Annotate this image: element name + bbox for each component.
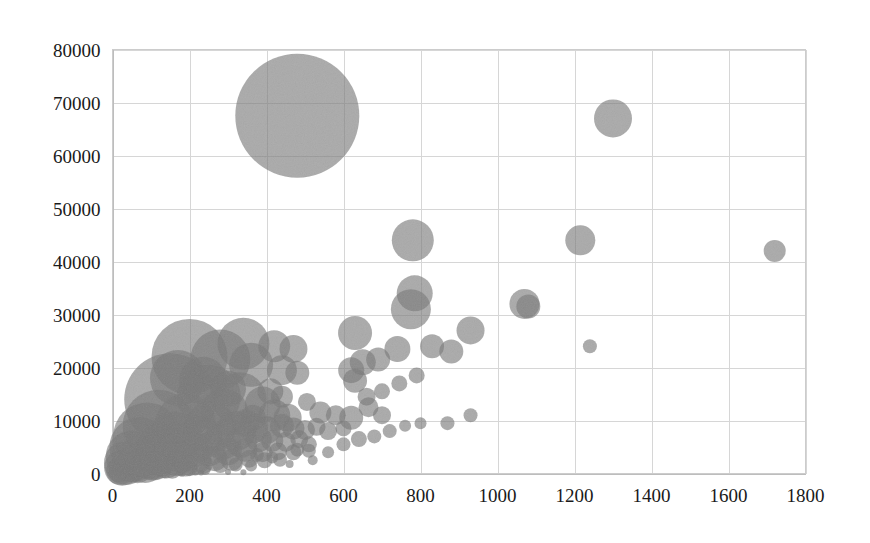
bubble-point [178, 469, 186, 477]
y-tick-label: 80000 [53, 40, 101, 61]
bubble-point [409, 367, 425, 383]
bubble-point [464, 408, 478, 422]
bubble-point [240, 405, 266, 431]
bubble-point [198, 469, 204, 475]
y-tick-label: 20000 [53, 358, 101, 379]
bubble-point [210, 371, 246, 407]
bubble-point [367, 429, 381, 443]
x-tick-label: 1000 [479, 485, 517, 506]
bubble-point [366, 348, 390, 372]
bubble-point [298, 393, 316, 411]
bubble-point [286, 460, 294, 468]
x-tick-label: 200 [175, 485, 204, 506]
bubble-point [271, 386, 293, 408]
bubble-point [337, 437, 351, 451]
bubble-point [235, 54, 359, 178]
x-tick-label: 400 [252, 485, 281, 506]
bubble-point [440, 416, 454, 430]
bubble-point [391, 375, 407, 391]
bubble-chart-figure: 020040060080010001200140016001800 010000… [0, 0, 870, 543]
bubble-point [122, 465, 138, 481]
x-tick-label: 1200 [556, 485, 594, 506]
bubble-point [565, 225, 595, 255]
y-tick-label: 0 [91, 464, 101, 485]
bubble-point [397, 275, 433, 311]
bubble-point [322, 446, 334, 458]
y-tick-label: 70000 [53, 93, 101, 114]
y-tick-label: 40000 [53, 252, 101, 273]
y-tick-label: 60000 [53, 146, 101, 167]
bubble-point [279, 335, 307, 363]
bubble-point [266, 452, 278, 464]
bubble-point [399, 420, 411, 432]
x-tick-label: 800 [406, 485, 435, 506]
bubble-point [308, 455, 318, 465]
bubble-point [245, 460, 257, 472]
bubble-point [594, 99, 632, 137]
bubble-point [374, 383, 390, 399]
chart-canvas: 020040060080010001200140016001800 010000… [0, 0, 870, 543]
x-tick-label: 1800 [787, 485, 825, 506]
y-axis-tick-labels: 0100002000030000400005000060000700008000… [53, 40, 101, 485]
bubble-point [137, 466, 149, 478]
bubble-point [373, 406, 391, 424]
bubble-point [338, 316, 372, 350]
bubble-point [225, 469, 231, 475]
bubble-point [764, 240, 786, 262]
bubble-point [516, 295, 540, 319]
x-tick-label: 1600 [710, 485, 748, 506]
bubble-point [290, 443, 304, 457]
bubble-point [583, 339, 597, 353]
bubble-point [240, 469, 246, 475]
bubble-point [392, 219, 434, 261]
x-tick-label: 1400 [633, 485, 671, 506]
y-tick-label: 30000 [53, 305, 101, 326]
bubble-point [457, 316, 485, 344]
bubble-point [154, 468, 164, 478]
bubble-point [191, 467, 199, 475]
bubble-point [229, 457, 243, 471]
bubble-point [285, 361, 309, 385]
x-tick-label: 0 [108, 485, 118, 506]
bubble-point [319, 422, 337, 440]
bubble-point [358, 388, 376, 406]
bubble-point [383, 424, 397, 438]
y-tick-label: 50000 [53, 199, 101, 220]
bubble-point [336, 420, 352, 436]
bubble-point [415, 417, 427, 429]
y-tick-label: 10000 [53, 411, 101, 432]
x-tick-label: 600 [329, 485, 358, 506]
bubble-point [439, 340, 463, 364]
bubble-point [351, 431, 367, 447]
